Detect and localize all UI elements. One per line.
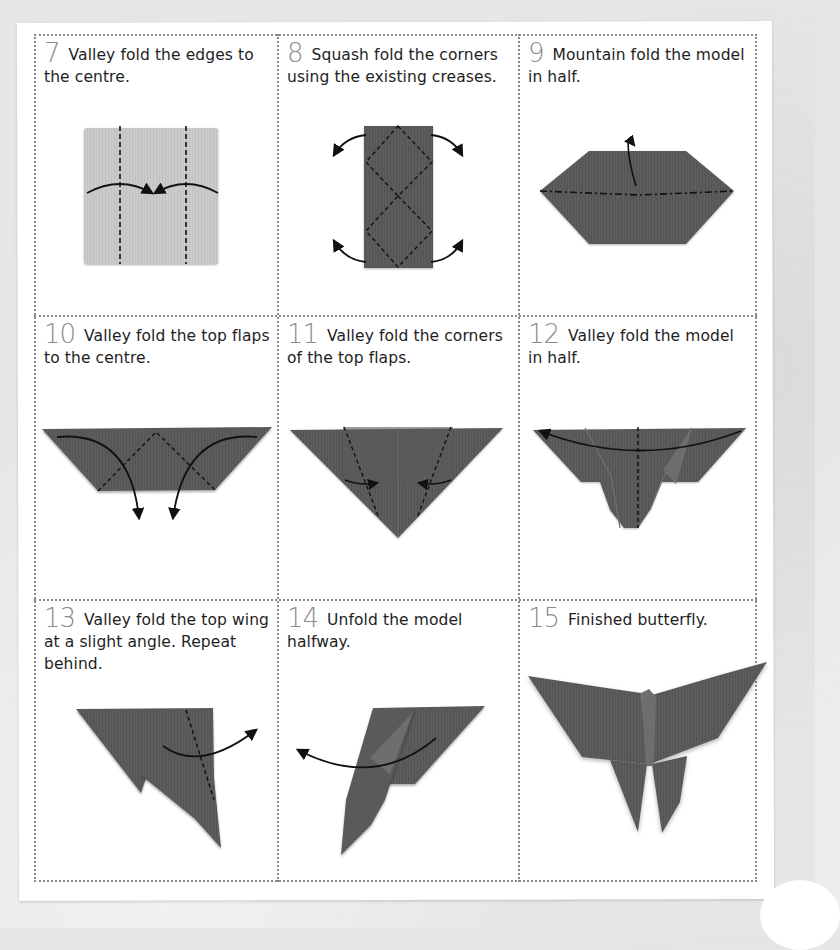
step-15-butterfly xyxy=(0,0,815,928)
